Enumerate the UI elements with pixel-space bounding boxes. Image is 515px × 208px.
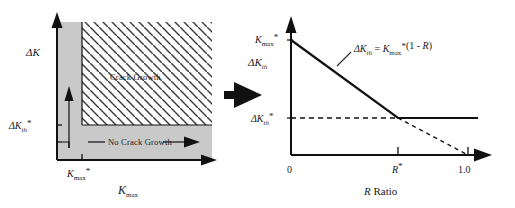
right-x-tick-label-0: 0 bbox=[287, 164, 292, 175]
left-chart: ΔK ΔKth* Kmax* Kmax Crack Growth No Crac… bbox=[8, 12, 217, 199]
left-x-tick-label: Kmax* bbox=[66, 166, 91, 182]
left-y-tick-label: ΔKth* bbox=[8, 118, 32, 134]
right-x-axis-label: R Ratio bbox=[363, 185, 398, 197]
extrapolated-line-dashed bbox=[398, 118, 468, 155]
left-x-axis-label: Kmax bbox=[117, 183, 139, 199]
left-y-axis-label: ΔK bbox=[25, 46, 40, 58]
equation-annotation: ΔKth = Kmax*(1 - R) bbox=[353, 40, 432, 57]
figure-container: ΔK ΔKth* Kmax* Kmax Crack Growth No Crac… bbox=[0, 0, 515, 208]
right-y-low-tick-label: ΔKth* bbox=[250, 111, 274, 127]
right-chart: Kmax* ΔKth ΔKth* ΔKth = Kmax*(1 - R) 0 R… bbox=[247, 16, 492, 197]
no-crack-growth-label: No Crack Growth bbox=[108, 137, 172, 147]
crack-growth-label: Crack Growth bbox=[110, 72, 161, 82]
right-x-tick-label-rstar: R* bbox=[391, 161, 403, 175]
equation-leader-line bbox=[337, 52, 351, 66]
left-y-axis-arrowhead bbox=[52, 12, 63, 28]
transition-arrow bbox=[224, 82, 262, 108]
right-x-axis-arrowhead bbox=[474, 149, 492, 162]
right-y-top-tick-label: Kmax* bbox=[254, 32, 279, 48]
right-y-axis-label: ΔKth bbox=[247, 56, 268, 71]
right-x-tick-label-one: 1.0 bbox=[458, 164, 471, 175]
right-y-axis-arrowhead bbox=[286, 16, 297, 33]
